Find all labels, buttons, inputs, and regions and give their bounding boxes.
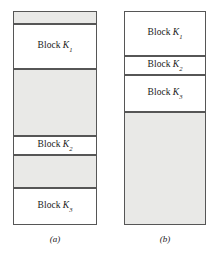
block-label: BlockK2: [37, 140, 72, 151]
memory-block-k2: BlockK2: [13, 136, 97, 155]
memory-allocation-figure: BlockK1BlockK2BlockK3 BlockK1BlockK2Bloc…: [0, 0, 219, 255]
block-label: BlockK2: [147, 60, 182, 71]
free-space-segment: [13, 155, 97, 188]
memory-block-k1: BlockK1: [124, 11, 206, 56]
free-space-segment: [13, 69, 97, 136]
caption-b: (b): [124, 234, 206, 244]
memory-block-k3: BlockK3: [13, 188, 97, 225]
block-label: BlockK3: [147, 88, 182, 99]
memory-block-k1: BlockK1: [13, 24, 97, 69]
block-label: BlockK1: [147, 28, 182, 39]
block-label: BlockK3: [37, 201, 72, 212]
memory-block-k3: BlockK3: [124, 75, 206, 112]
free-space-segment: [124, 112, 206, 225]
caption-a: (a): [13, 234, 97, 244]
memory-column-b: BlockK1BlockK2BlockK3: [124, 11, 206, 225]
memory-block-k2: BlockK2: [124, 56, 206, 75]
memory-column-a: BlockK1BlockK2BlockK3: [13, 11, 97, 225]
block-label: BlockK1: [37, 41, 72, 52]
free-space-segment: [13, 11, 97, 24]
